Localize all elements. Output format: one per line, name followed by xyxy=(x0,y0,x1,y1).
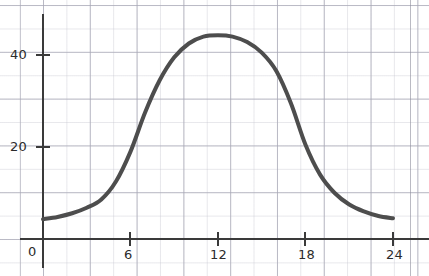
chart-container: 40 20 0 6 12 18 24 xyxy=(0,0,429,276)
x-axis-tick-label-0: 0 xyxy=(28,245,36,258)
x-axis-tick-label-18: 18 xyxy=(298,248,315,261)
y-axis-tick-label-20: 20 xyxy=(10,140,27,153)
x-axis-tick-label-24: 24 xyxy=(386,248,403,261)
x-axis-tick-label-6: 6 xyxy=(124,248,132,261)
y-axis-tick-label-40: 40 xyxy=(10,48,27,61)
x-axis-tick-label-12: 12 xyxy=(210,248,227,261)
data-curve xyxy=(43,35,393,219)
plot-area xyxy=(0,0,429,276)
